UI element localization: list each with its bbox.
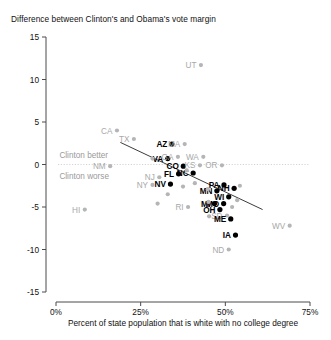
data-point <box>83 207 87 211</box>
data-point <box>199 63 203 67</box>
data-point-label: WV <box>272 222 286 231</box>
data-point <box>176 171 181 176</box>
x-axis-tick-label: 50% <box>217 307 234 317</box>
data-point <box>235 198 239 202</box>
data-point <box>226 194 231 199</box>
data-point <box>176 155 180 159</box>
data-point <box>221 201 226 206</box>
y-axis-tick-label: 15 <box>30 32 40 42</box>
data-point <box>288 224 292 228</box>
data-point-label: CA <box>101 127 113 136</box>
y-axis-tick-label: 0 <box>34 160 39 170</box>
data-point <box>181 185 185 189</box>
scatter-chart: Difference between Clinton's and Obama's… <box>0 0 331 340</box>
data-point <box>185 168 189 172</box>
data-point <box>207 214 211 218</box>
data-point <box>168 181 173 186</box>
data-point <box>227 247 231 251</box>
data-point <box>115 128 119 132</box>
data-point-label: ND <box>212 246 224 255</box>
plot-annotation: Clinton better <box>59 151 108 160</box>
data-point <box>132 137 136 141</box>
x-axis-tick-label: 75% <box>302 307 319 317</box>
data-point <box>150 156 154 160</box>
data-point <box>230 205 234 209</box>
data-point <box>206 187 210 191</box>
data-point-label: NM <box>93 162 106 171</box>
y-axis-tick-label: -10 <box>27 245 39 255</box>
data-point-label: NV <box>155 180 167 189</box>
data-point <box>150 183 154 187</box>
data-point-label: GA <box>162 153 174 162</box>
data-point-label: TX <box>119 135 130 144</box>
data-point <box>108 164 112 168</box>
plot-annotation: Clinton worse <box>59 172 109 181</box>
data-point-label: OR <box>205 161 217 170</box>
plot-area: 151050-5-10-150%25%50%75%Percent of stat… <box>0 0 331 340</box>
data-point-label: MA <box>168 140 181 149</box>
x-axis-title: Percent of state population that is whit… <box>68 318 299 328</box>
data-point <box>238 184 242 188</box>
data-point <box>193 181 197 185</box>
data-point-label: RI <box>175 203 183 212</box>
y-axis-tick-label: -15 <box>27 287 39 297</box>
data-point <box>233 232 238 237</box>
data-point <box>166 192 170 196</box>
y-axis-tick-label: 10 <box>30 75 40 85</box>
data-point <box>198 163 202 167</box>
data-point <box>186 205 190 209</box>
data-point-label: HI <box>72 206 80 215</box>
data-point <box>206 200 210 204</box>
data-point-label: ME <box>214 215 227 224</box>
data-point <box>157 175 161 179</box>
data-point <box>156 202 160 206</box>
y-axis-tick-label: 5 <box>34 117 39 127</box>
y-axis-tick-label: -5 <box>32 202 40 212</box>
data-point-label: AZ <box>156 140 167 149</box>
x-axis-tick-label: 25% <box>132 307 149 317</box>
data-point <box>201 155 205 159</box>
data-point <box>191 170 196 175</box>
x-axis-tick-label: 0% <box>50 307 63 317</box>
data-point <box>220 163 224 167</box>
data-point-label: NY <box>137 181 149 190</box>
data-point <box>232 186 237 191</box>
data-point-label: UT <box>186 61 197 70</box>
data-point-label: IA <box>223 231 231 240</box>
data-point <box>228 216 233 221</box>
data-point-label: FL <box>164 170 174 179</box>
data-point <box>183 142 187 146</box>
